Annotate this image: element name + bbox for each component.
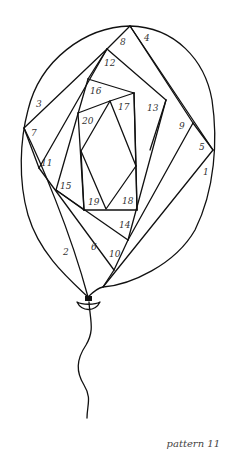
- spiral-line-10: [39, 168, 114, 270]
- region-label-16: 16: [90, 86, 102, 96]
- region-label-10: 10: [109, 249, 121, 259]
- region-number-labels: 1234567891011121314151617181920: [31, 33, 209, 259]
- region-label-3: 3: [36, 99, 42, 109]
- spiral-line-8: [107, 26, 130, 49]
- spiral-line-20b: [78, 101, 110, 113]
- balloon-string: [78, 302, 91, 418]
- knot: [85, 296, 92, 301]
- region-label-17: 17: [118, 102, 130, 112]
- spiral-line-20: [78, 113, 84, 210]
- region-label-18: 18: [122, 196, 134, 206]
- region-label-1: 1: [203, 167, 209, 177]
- region-label-20: 20: [81, 116, 94, 126]
- spiral-line-14b: [56, 190, 84, 210]
- region-label-6: 6: [91, 242, 97, 252]
- region-label-9: 9: [179, 121, 185, 131]
- spiral-line-9b: [130, 26, 193, 123]
- spiral-line-18b: [134, 93, 137, 210]
- region-label-8: 8: [120, 37, 126, 47]
- region-label-4: 4: [143, 33, 150, 43]
- region-label-2: 2: [62, 247, 69, 257]
- pattern-caption: pattern 11: [167, 438, 220, 449]
- region-label-5: 5: [199, 142, 205, 152]
- spiral-line-6: [103, 270, 114, 287]
- spiral-line-15b: [56, 79, 88, 190]
- region-label-15: 15: [60, 181, 72, 191]
- spiral-line-17b: [110, 93, 134, 101]
- region-label-7: 7: [31, 128, 37, 138]
- region-label-14: 14: [119, 220, 131, 230]
- spiral-line-12: [107, 49, 166, 100]
- spiral-line-9: [128, 123, 193, 240]
- region-label-11: 11: [41, 158, 52, 168]
- region-label-12: 12: [104, 58, 116, 68]
- region-label-13: 13: [147, 103, 159, 113]
- balloon-pattern-diagram: 1234567891011121314151617181920: [0, 0, 228, 468]
- region-label-19: 19: [88, 197, 100, 207]
